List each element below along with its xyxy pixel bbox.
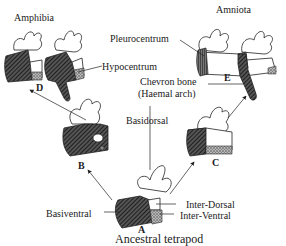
group-label-amphibia: Amphibia [14, 12, 54, 23]
arrow-b-to-d [30, 90, 86, 120]
group-label-amniota: Amniota [216, 4, 251, 15]
stage-label-b: B [78, 160, 85, 171]
vertebra-c [187, 107, 232, 156]
part-label-inter-ventral: Inter-Ventral [180, 210, 231, 221]
part-label-hypocentrum: Hypocentrum [102, 61, 157, 72]
stage-label-d: D [36, 82, 43, 93]
part-label-basidorsal: Basidorsal [126, 115, 168, 126]
part-label-basiventral: Basiventral [46, 208, 92, 219]
arrow-c-to-e [228, 96, 246, 118]
vertebrae-evolution-diagram: Amphibia Amniota Pleurocentrum Hypocentr… [0, 0, 286, 246]
part-label-haemal-arch: (Haemal arch) [138, 88, 195, 99]
part-label-chevron-bone: Chevron bone [140, 76, 196, 87]
vertebra-e [197, 29, 276, 100]
group-label-ancestral-tetrapod: Ancestral tetrapod [115, 233, 203, 246]
stage-label-e: E [224, 72, 231, 83]
stage-label-a: A [138, 224, 145, 235]
arrow-a-to-c [170, 162, 194, 194]
part-label-pleurocentrum: Pleurocentrum [110, 33, 169, 44]
part-label-inter-dorsal: Inter-Dorsal [186, 199, 235, 210]
vertebra-b [63, 99, 108, 156]
arrow-a-to-b [88, 170, 112, 200]
stage-label-c: C [212, 157, 219, 168]
vertebra-d [5, 31, 84, 101]
vertebra-a [115, 166, 171, 228]
